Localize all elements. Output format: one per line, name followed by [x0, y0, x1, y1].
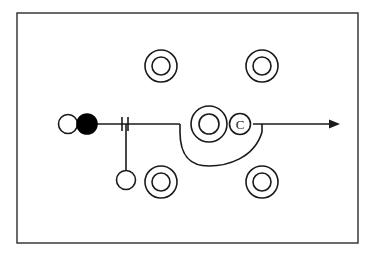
donut-top-right [246, 50, 278, 82]
donut-bottom-right [246, 166, 278, 198]
donut-top-left [145, 50, 177, 82]
schematic-diagram: C [0, 0, 384, 266]
diagram-canvas: C Schematic line diagram inside a rectan… [0, 0, 384, 266]
circled-c-symbol: C [230, 114, 251, 135]
open-circle-bottom [117, 171, 136, 190]
donut-center [191, 106, 227, 142]
donut-bottom-left [145, 166, 177, 198]
filled-circle [77, 114, 97, 134]
circled-c-label: C [236, 117, 245, 132]
open-circle-left [59, 115, 78, 134]
